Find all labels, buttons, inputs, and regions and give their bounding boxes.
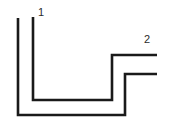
callout-label-2: 2 — [144, 33, 150, 45]
technical-drawing-figure: 1 2 — [0, 0, 189, 135]
inner-stepped-profile-line — [33, 17, 157, 100]
line-drawing-canvas: 1 2 — [0, 0, 189, 135]
callout-label-1: 1 — [38, 6, 44, 18]
